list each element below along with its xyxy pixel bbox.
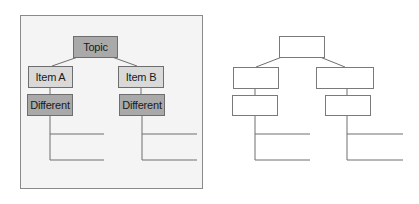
item-b-node: Item B [118,66,164,88]
blank-root-node [279,36,325,58]
blank-item-left-node [233,67,279,89]
blank-child-left-node [232,95,278,116]
blank-item-right-node [316,67,374,89]
different-b-node: Different [119,94,165,116]
topic-node: Topic [73,36,118,58]
item-a-node: Item A [28,66,73,88]
different-a-node: Different [27,94,73,116]
blank-child-right-node [325,95,371,116]
